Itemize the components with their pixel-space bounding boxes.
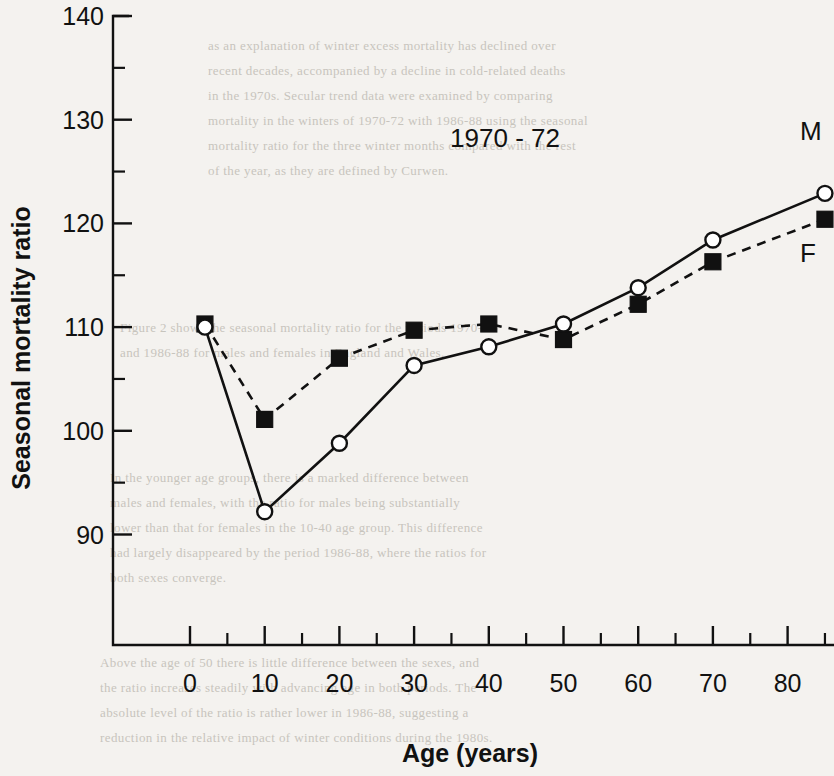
series-label-m: M: [800, 116, 822, 146]
y-axis-tick-label: 90: [76, 521, 104, 549]
data-point-m: [817, 186, 832, 201]
x-axis-tick-label: 60: [624, 669, 652, 697]
data-point-f: [630, 296, 646, 312]
x-axis-tick-label: 20: [325, 669, 353, 697]
x-axis-tick-label: 50: [550, 669, 578, 697]
chart-figure: as an explanation of winter excess morta…: [0, 0, 834, 776]
data-point-m: [197, 320, 212, 335]
x-axis-tick-label: 70: [699, 669, 727, 697]
data-point-m: [407, 358, 422, 373]
y-axis-ticks: [113, 16, 132, 535]
series-label-f: F: [800, 238, 816, 268]
series-markers-f: [197, 211, 833, 427]
series-line-m: [205, 193, 825, 511]
data-point-f: [331, 350, 347, 366]
y-axis-tick-label: 140: [62, 2, 104, 30]
x-axis-tick-label: 0: [183, 669, 197, 697]
x-axis-tick-label: 80: [774, 669, 802, 697]
chart-title: 1970 - 72: [450, 123, 560, 153]
y-axis-title: Seasonal mortality ratio: [7, 206, 35, 489]
x-axis-tick-label: 40: [475, 669, 503, 697]
y-axis-tick-labels: 90100110120130140: [62, 2, 104, 549]
chart-plot-area: [197, 186, 833, 519]
x-axis-ticks: [190, 626, 825, 645]
x-axis-tick-labels: 01020304050607080: [183, 669, 801, 697]
series-line-f: [205, 219, 825, 419]
data-point-f: [406, 322, 422, 338]
x-axis-tick-label: 10: [251, 669, 279, 697]
data-point-m: [631, 280, 646, 295]
data-point-m: [332, 436, 347, 451]
data-point-f: [705, 254, 721, 270]
data-point-m: [705, 232, 720, 247]
chart-svg: 90100110120130140 01020304050607080 1970…: [0, 0, 834, 776]
y-axis-tick-label: 110: [64, 313, 104, 341]
data-point-m: [556, 316, 571, 331]
y-axis-tick-label: 120: [62, 209, 104, 237]
data-point-m: [257, 504, 272, 519]
chart-axes: [113, 16, 834, 645]
y-axis-tick-label: 130: [62, 106, 104, 134]
data-point-f: [257, 411, 273, 427]
data-point-f: [481, 316, 497, 332]
x-axis-title: Age (years): [402, 739, 538, 767]
data-point-m: [481, 339, 496, 354]
data-point-f: [556, 332, 572, 348]
x-axis-tick-label: 30: [400, 669, 428, 697]
series-markers-m: [197, 186, 832, 519]
y-axis-tick-label: 100: [62, 417, 104, 445]
data-point-f: [817, 211, 833, 227]
